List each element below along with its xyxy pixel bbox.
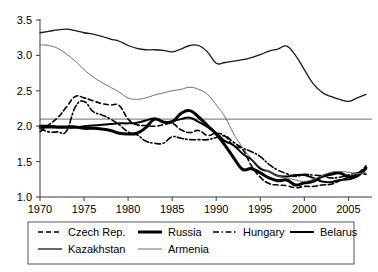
x-tick-label: 1975 <box>72 203 96 215</box>
legend-label: Czech Rep. <box>68 226 125 238</box>
legend-label: Armenia <box>168 243 210 255</box>
x-tick-label: 2000 <box>292 203 316 215</box>
y-tick-label: 3.0 <box>17 49 32 61</box>
legend-label: Russia <box>168 226 203 238</box>
chart-figure: 1.01.52.02.53.03.5 197019751980198519901… <box>0 0 378 272</box>
y-tick-label: 3.5 <box>17 14 32 26</box>
x-tick-label: 1980 <box>116 203 140 215</box>
x-tick-label: 1970 <box>28 203 52 215</box>
y-tick-label: 1.0 <box>17 191 32 203</box>
y-tick-label: 2.5 <box>17 85 32 97</box>
legend-label: Hungary <box>243 226 285 238</box>
fertility-line-chart: 1.01.52.02.53.03.5 197019751980198519901… <box>0 0 378 272</box>
x-tick-label: 2005 <box>336 203 360 215</box>
legend-label: Belarus <box>320 226 358 238</box>
x-tick-label: 1990 <box>204 203 228 215</box>
y-tick-label: 2.0 <box>17 120 32 132</box>
x-tick-label: 1995 <box>248 203 272 215</box>
x-tick-label: 1985 <box>160 203 184 215</box>
legend-label: Kazakhstan <box>68 243 125 255</box>
y-tick-label: 1.5 <box>17 156 32 168</box>
